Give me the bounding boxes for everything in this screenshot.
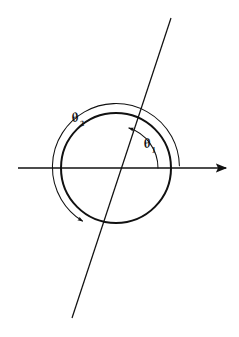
outer-arc-theta2 <box>52 104 179 221</box>
theta1-symbol: θ <box>142 135 151 151</box>
diagram-svg <box>0 0 239 337</box>
figure-canvas: θ2 θ1 <box>0 0 239 337</box>
